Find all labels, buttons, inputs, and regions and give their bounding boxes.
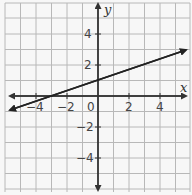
y-tick-4: 4 xyxy=(84,27,92,41)
coordinate-plane: x y −4 −2 0 2 4 4 2 −2 −4 xyxy=(0,0,192,195)
x-tick-4: 4 xyxy=(156,100,164,114)
graph-svg: x y −4 −2 0 2 4 4 2 −2 −4 xyxy=(0,0,192,195)
y-tick-neg2: −2 xyxy=(76,120,94,134)
origin-label: 0 xyxy=(87,100,95,114)
x-axis-label: x xyxy=(180,80,188,95)
y-tick-neg4: −4 xyxy=(76,151,94,165)
y-tick-2: 2 xyxy=(84,58,92,72)
x-tick-neg2: −2 xyxy=(57,100,75,114)
y-axis-label: y xyxy=(103,2,112,17)
x-tick-2: 2 xyxy=(125,100,133,114)
x-tick-neg4: −4 xyxy=(26,100,44,114)
